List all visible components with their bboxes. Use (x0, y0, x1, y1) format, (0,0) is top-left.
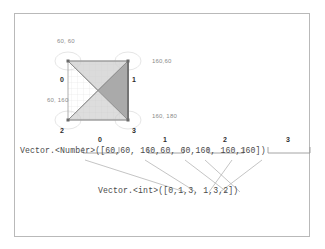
vertex-label-1: 1 (132, 76, 136, 83)
vertex-label-0: 0 (60, 76, 64, 83)
vertex-dot-3 (127, 119, 130, 122)
vertex-dot-0 (67, 60, 70, 63)
index-number-0: 0 (98, 136, 102, 143)
quad-diagram: 60, 60 160,60 60, 160 160, 180 0 1 2 3 (35, 28, 195, 138)
index-number-3: 3 (286, 136, 290, 143)
screenshot-canvas: 60, 60 160,60 60, 160 160, 180 0 1 2 3 0 (0, 0, 325, 249)
index-number-2: 2 (223, 136, 227, 143)
code-line-number-vector: Vector.<Number>([60,60, 160,60, 60,160, … (20, 146, 266, 155)
vertex-dot-2 (67, 119, 70, 122)
coord-label-160-60: 160,60 (152, 58, 172, 64)
quad-diagram-svg (35, 28, 195, 140)
figure-frame: 60, 60 160,60 60, 160 160, 180 0 1 2 3 0 (14, 13, 310, 237)
vertex-label-2: 2 (60, 127, 64, 134)
coord-label-60-60: 60, 60 (57, 38, 75, 44)
vertex-label-3: 3 (132, 127, 136, 134)
code-line-int-vector: Vector.<int>([0,1,3, 1,3,2]) (98, 186, 238, 195)
vertex-dot-1 (127, 60, 130, 63)
index-number-1: 1 (163, 136, 167, 143)
coord-label-160-180: 160, 180 (152, 113, 177, 119)
coord-label-60-160: 60, 160 (47, 97, 68, 103)
index-bracket-3 (268, 147, 310, 153)
